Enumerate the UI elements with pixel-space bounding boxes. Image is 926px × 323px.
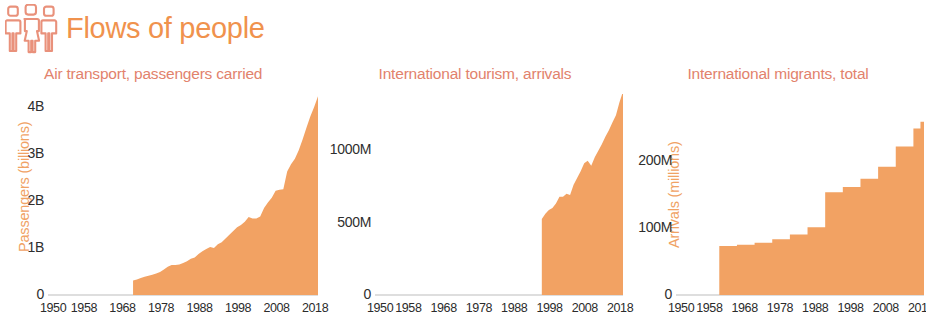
plot-area-international-tourism: 0500M1000M195019581968197819881998200820… <box>325 94 625 304</box>
y-tick-air-transport-3B: 3B <box>0 145 44 161</box>
y-tick-international-tourism-0: 0 <box>325 286 371 302</box>
plot-area-international-migrants: 0100M200M1950195819681978198819982008201… <box>630 94 926 304</box>
x-tick-international-migrants-1988: 1988 <box>802 301 828 315</box>
x-tick-air-transport-1958: 1958 <box>71 301 97 315</box>
area-chart-international-tourism <box>325 94 625 304</box>
chart-panel-air-transport: Air transport, passengers carried Passen… <box>0 58 320 323</box>
x-tick-air-transport-1988: 1988 <box>186 301 212 315</box>
x-tick-international-migrants-1950: 1950 <box>668 301 694 315</box>
y-tick-air-transport-4B: 4B <box>0 98 44 114</box>
x-tick-international-tourism-1998: 1998 <box>536 301 562 315</box>
y-tick-international-tourism-1000M: 1000M <box>325 141 371 157</box>
y-tick-international-tourism-500M: 500M <box>325 214 371 230</box>
page-title: Flows of people <box>66 11 265 45</box>
x-tick-air-transport-1968: 1968 <box>109 301 135 315</box>
section-header: Flows of people <box>0 0 400 58</box>
y-tick-air-transport-1B: 1B <box>0 239 44 255</box>
area-series-air-transport <box>133 96 318 295</box>
x-tick-international-tourism-1988: 1988 <box>501 301 527 315</box>
chart-panel-international-migrants: International migrants, total Migrants (… <box>630 58 926 323</box>
y-tick-air-transport-2B: 2B <box>0 192 44 208</box>
plot-area-air-transport: 01B2B3B4B1950195819681978198819982008201… <box>0 94 320 304</box>
x-tick-air-transport-1978: 1978 <box>148 301 174 315</box>
area-chart-international-migrants <box>630 94 926 304</box>
chart-panel-international-tourism: International tourism, arrivals Arrivals… <box>325 58 625 323</box>
area-series-international-migrants <box>719 112 924 295</box>
x-tick-international-tourism-1950: 1950 <box>367 301 393 315</box>
x-tick-international-migrants-1978: 1978 <box>767 301 793 315</box>
chart-title-air-transport: Air transport, passengers carried <box>44 65 262 83</box>
chart-title-international-tourism: International tourism, arrivals <box>325 65 625 83</box>
x-tick-air-transport-1950: 1950 <box>40 301 66 315</box>
x-tick-air-transport-2008: 2008 <box>263 301 289 315</box>
x-tick-international-migrants-2018: 2018 <box>908 301 926 315</box>
area-chart-air-transport <box>0 94 320 304</box>
x-tick-international-tourism-2008: 2008 <box>572 301 598 315</box>
chart-title-international-migrants: International migrants, total <box>630 65 926 83</box>
y-tick-international-migrants-200M: 200M <box>630 152 672 168</box>
y-tick-air-transport-0: 0 <box>0 286 44 302</box>
x-tick-international-migrants-2008: 2008 <box>873 301 899 315</box>
y-tick-international-migrants-100M: 100M <box>630 219 672 235</box>
x-tick-international-migrants-1958: 1958 <box>696 301 722 315</box>
x-tick-international-migrants-1998: 1998 <box>837 301 863 315</box>
x-tick-international-tourism-1978: 1978 <box>466 301 492 315</box>
x-tick-international-migrants-1968: 1968 <box>732 301 758 315</box>
three-people-icon <box>5 4 63 54</box>
x-tick-air-transport-1998: 1998 <box>225 301 251 315</box>
x-tick-international-tourism-1968: 1968 <box>431 301 457 315</box>
area-series-international-tourism <box>542 94 623 295</box>
y-tick-international-migrants-0: 0 <box>630 286 672 302</box>
x-tick-international-tourism-1958: 1958 <box>395 301 421 315</box>
